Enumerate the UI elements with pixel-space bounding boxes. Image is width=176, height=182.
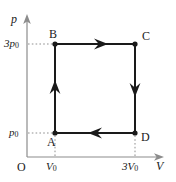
x-tick-label-V0: V0 — [46, 161, 57, 173]
point-marker-C — [132, 41, 137, 46]
origin-label: O — [17, 161, 26, 173]
y-tick-3p0-sub: 0 — [15, 41, 19, 50]
y-tick-label-p0: p0 — [9, 127, 18, 139]
y-tick-3p0-main: 3p — [4, 37, 15, 49]
x-tick-3V0-main: 3V — [122, 160, 134, 172]
guide-lines — [28, 44, 135, 156]
point-marker-B — [52, 41, 57, 46]
cycle-path — [54, 44, 136, 133]
x-tick-3V0-sub: 0 — [134, 164, 138, 173]
diagram-canvas — [0, 0, 176, 182]
x-tick-V0-sub: 0 — [53, 164, 57, 173]
y-axis-label: p — [11, 13, 17, 25]
pv-cycle-diagram: p V O 3p0 p0 V0 3V0 A B C D — [0, 0, 176, 182]
point-label-A: A — [47, 136, 56, 148]
point-label-B: B — [49, 28, 57, 40]
corner-markers — [52, 41, 137, 135]
x-tick-V0-main: V — [46, 160, 53, 172]
x-tick-label-3V0: 3V0 — [122, 161, 138, 173]
direction-arrowheads — [50, 39, 141, 139]
point-marker-D — [132, 130, 137, 135]
point-label-C: C — [142, 30, 150, 42]
y-tick-label-3p0: 3p0 — [4, 38, 19, 50]
point-label-D: D — [141, 131, 150, 143]
y-tick-p0-sub: 0 — [15, 130, 19, 139]
x-axis-label: V — [156, 160, 163, 172]
